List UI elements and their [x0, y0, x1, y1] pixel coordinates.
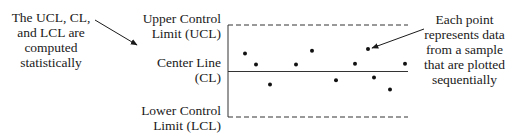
data-point — [353, 62, 357, 66]
control-chart — [0, 0, 515, 140]
data-point — [310, 49, 314, 53]
data-point — [334, 78, 338, 82]
data-point — [268, 82, 272, 86]
data-point — [372, 76, 376, 80]
data-point — [403, 62, 407, 66]
data-point — [254, 63, 258, 67]
data-point — [243, 52, 247, 56]
left-arrow — [95, 20, 137, 45]
right-arrow — [372, 29, 424, 48]
data-points — [243, 47, 407, 91]
data-point — [366, 47, 370, 51]
data-point — [294, 63, 298, 67]
data-point — [388, 87, 392, 91]
